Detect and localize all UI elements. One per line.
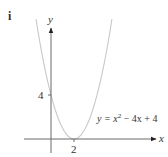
- y-tick-label: 4: [38, 89, 44, 101]
- equation-label: y = x2 − 4x + 4: [96, 112, 157, 124]
- equation-rhs: − 4x + 4: [121, 113, 157, 124]
- y-axis-label: y: [47, 13, 53, 25]
- x-axis-label: x: [158, 132, 164, 144]
- parabola-graph: i y x 4 2 y = x2 − 4x + 4: [0, 0, 168, 157]
- equation-lhs: y = x: [96, 113, 118, 124]
- part-label: i: [8, 9, 12, 23]
- x-tick-label: 2: [71, 143, 77, 155]
